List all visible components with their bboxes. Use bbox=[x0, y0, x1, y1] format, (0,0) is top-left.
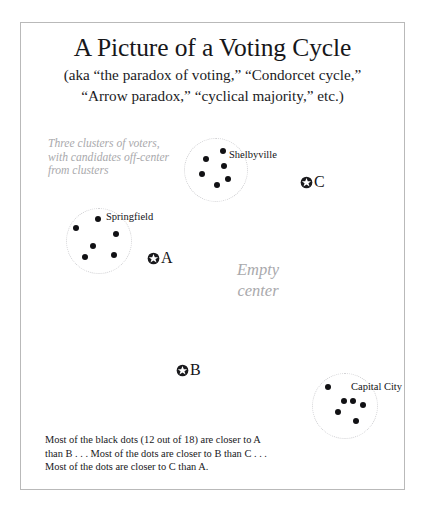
candidate-marker-c: C bbox=[300, 175, 325, 189]
page-title: A Picture of a Voting Cycle bbox=[21, 33, 404, 63]
star-in-circle-icon bbox=[176, 364, 189, 377]
voter-dot bbox=[325, 384, 331, 390]
voter-dot bbox=[199, 171, 205, 177]
subtitle-line-2: “Arrow paradox,” “cyclical majority,” et… bbox=[21, 86, 404, 105]
voter-dot bbox=[220, 148, 226, 154]
annotation-empty-center-line-2: center bbox=[215, 280, 301, 301]
cluster-circle-shelbyville bbox=[184, 138, 248, 202]
annotation-empty-center: Empty center bbox=[215, 259, 301, 301]
annotation-empty-center-line-1: Empty bbox=[215, 259, 301, 280]
voter-dot bbox=[335, 409, 341, 415]
voter-dot bbox=[111, 252, 117, 258]
caption-line-2: than B . . . Most of the dots are closer… bbox=[45, 447, 365, 461]
voter-dot bbox=[353, 418, 359, 424]
voter-dot bbox=[90, 243, 96, 249]
cluster-label-shelbyville: Shelbyville bbox=[229, 149, 277, 160]
candidate-marker-a: A bbox=[147, 251, 173, 265]
cluster-label-capital-city: Capital City bbox=[351, 381, 402, 392]
star-in-circle-icon bbox=[147, 252, 160, 265]
star-in-circle-icon bbox=[300, 176, 313, 189]
voter-dot bbox=[82, 254, 88, 260]
figure-caption: Most of the black dots (12 out of 18) ar… bbox=[45, 433, 365, 474]
cluster-label-springfield: Springfield bbox=[106, 211, 153, 222]
subtitle-line-1: (aka “the paradox of voting,” “Condorcet… bbox=[21, 65, 404, 84]
voter-dot bbox=[221, 163, 227, 169]
title-block: A Picture of a Voting Cycle (aka “the pa… bbox=[21, 33, 404, 105]
voter-dot bbox=[95, 216, 101, 222]
voter-dot bbox=[113, 231, 119, 237]
candidate-letter-c: C bbox=[314, 175, 325, 189]
caption-line-3: Most of the dots are closer to C than A. bbox=[45, 460, 365, 474]
voter-dot bbox=[360, 402, 366, 408]
caption-line-1: Most of the black dots (12 out of 18) ar… bbox=[45, 433, 365, 447]
figure-panel: A Picture of a Voting Cycle (aka “the pa… bbox=[20, 22, 405, 490]
candidate-letter-a: A bbox=[161, 251, 173, 265]
voter-dot bbox=[214, 182, 220, 188]
candidate-marker-b: B bbox=[176, 363, 201, 377]
voter-dot bbox=[203, 156, 209, 162]
voter-dot bbox=[73, 225, 79, 231]
voter-dot bbox=[225, 176, 231, 182]
voter-dot bbox=[341, 398, 347, 404]
annotation-three-clusters-line-1: Three clusters of voters, bbox=[48, 137, 208, 151]
voter-dot bbox=[350, 398, 356, 404]
candidate-letter-b: B bbox=[190, 363, 201, 377]
